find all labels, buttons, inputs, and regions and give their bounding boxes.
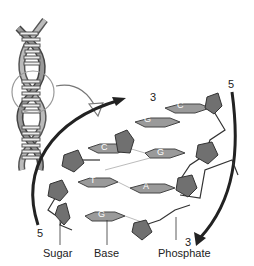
base-letter-c2: C: [101, 143, 108, 152]
double-helix-icon: [18, 20, 45, 170]
base-letter-t: T: [90, 176, 96, 185]
base-letter-c1: C: [177, 101, 184, 110]
base-letter-a: A: [143, 182, 149, 191]
label-phosphate: Phosphate: [158, 248, 211, 259]
strand-end-top-right: 5: [228, 79, 234, 90]
label-sugar: Sugar: [43, 248, 72, 259]
base-letter-g1: G: [144, 115, 151, 124]
base-letter-g3: G: [98, 210, 105, 219]
base-letter-g2: G: [157, 148, 164, 157]
strand-end-bottom-left: 5: [37, 228, 43, 239]
strand-end-top-left: 3: [150, 92, 156, 103]
label-base: Base: [94, 248, 119, 259]
